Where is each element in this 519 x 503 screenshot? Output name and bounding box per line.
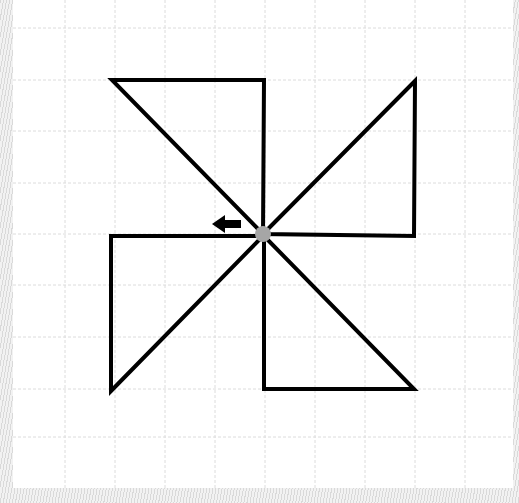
center-point xyxy=(255,226,271,242)
triangle-top-left xyxy=(112,80,264,234)
triangle-bottom-left xyxy=(111,236,263,391)
arrow-left-icon xyxy=(212,215,241,233)
triangle-top-right xyxy=(263,81,415,236)
triangle-bottom-right xyxy=(264,236,414,389)
pinwheel-diagram xyxy=(0,0,519,503)
